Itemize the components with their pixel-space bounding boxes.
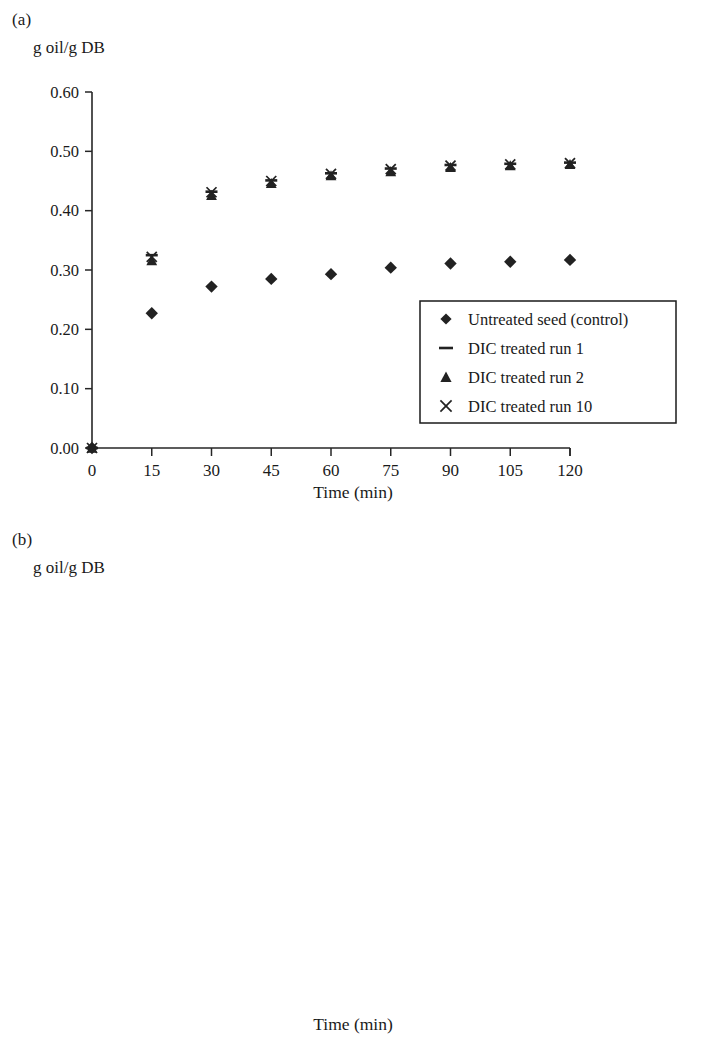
filled-diamond-marker — [385, 261, 397, 273]
panel-b-plot-area: 0.000.100.200.300.400.500.60015304560759… — [0, 512, 706, 1057]
panel-a-y-tick-label: 0.30 — [50, 261, 79, 280]
panel-a-plot-area: 0.000.100.200.300.400.500.60015304560759… — [0, 0, 706, 512]
panel-a-legend-label: Untreated seed (control) — [468, 310, 628, 329]
panel-a-x-tick-label: 75 — [382, 461, 399, 480]
panel-a-legend: Untreated seed (control)DIC treated run … — [420, 301, 676, 423]
panel-a-y-tick-label: 0.60 — [50, 83, 79, 102]
panel-a-x-tick-label: 15 — [143, 461, 160, 480]
panel-a-y-tick-label: 0.50 — [50, 142, 79, 161]
panel-a-legend-label: DIC treated run 2 — [468, 368, 584, 387]
filled-diamond-marker — [444, 257, 456, 269]
filled-diamond-marker — [325, 268, 337, 280]
filled-diamond-marker — [205, 280, 217, 292]
panel-a-y-tick-label: 0.40 — [50, 201, 79, 220]
filled-diamond-marker — [265, 273, 277, 285]
panel-a-y-tick-label: 0.00 — [50, 439, 79, 458]
filled-diamond-marker — [146, 307, 158, 319]
panel-a-x-tick-label: 90 — [442, 461, 459, 480]
panel-b-x-axis-title: Time (min) — [0, 1014, 706, 1035]
panel-a-x-tick-label: 45 — [263, 461, 280, 480]
panel-a-svg: 0.000.100.200.300.400.500.60015304560759… — [0, 0, 706, 512]
chart-panel-a: (a) g oil/g DB 0.000.100.200.300.400.500… — [0, 0, 706, 512]
panel-b-svg: 0.000.100.200.300.400.500.60015304560759… — [0, 512, 706, 1057]
panel-a-x-tick-label: 0 — [88, 461, 97, 480]
filled-diamond-marker — [564, 254, 576, 266]
filled-diamond-marker — [504, 255, 516, 267]
panel-a-x-tick-label: 60 — [323, 461, 340, 480]
panel-a-legend-label: DIC treated run 10 — [468, 397, 592, 416]
chart-panel-b: (b) g oil/g DB 0.000.100.200.300.400.500… — [0, 512, 706, 1057]
panel-a-x-axis-title: Time (min) — [0, 482, 706, 503]
panel-a-y-tick-label: 0.10 — [50, 379, 79, 398]
panel-a-x-tick-label: 120 — [557, 461, 583, 480]
panel-a-x-tick-label: 105 — [498, 461, 524, 480]
panel-a-y-tick-label: 0.20 — [50, 320, 79, 339]
panel-a-x-tick-label: 30 — [203, 461, 220, 480]
panel-a-legend-label: DIC treated run 1 — [468, 339, 584, 358]
